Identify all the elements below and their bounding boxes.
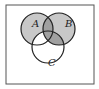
label-c: C (48, 57, 56, 68)
venn-diagram: A B C (0, 0, 99, 89)
label-a: A (31, 18, 39, 29)
label-b: B (64, 18, 72, 29)
